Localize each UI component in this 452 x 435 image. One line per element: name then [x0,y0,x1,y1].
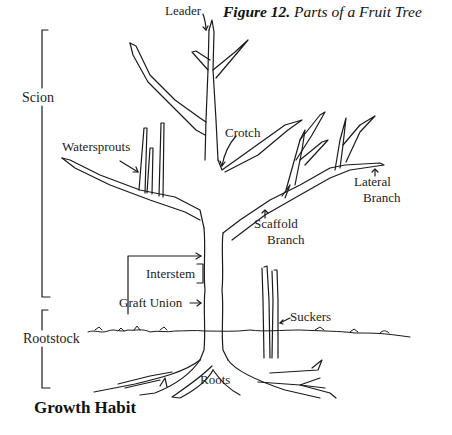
suckers [262,266,290,358]
scaffold-branch-label-line1: Scaffold [254,217,298,231]
fruit-tree-diagram: Figure 12. Parts of a Fruit Tree Scion R… [0,0,452,435]
graft-union-arrow [190,300,201,306]
upper-left-branch [130,43,206,135]
scaffold-branch-label-line2: Branch [267,233,305,247]
lateral-branch-label-line2: Branch [363,191,401,205]
watersprouts [139,123,164,197]
graft-union-label: Graft Union [119,296,182,310]
watersprouts-label: Watersprouts [62,140,130,154]
rootstock-label: Rootstock [23,332,80,346]
leader-arrow [203,14,208,30]
growth-habit-heading: Growth Habit [34,398,136,418]
lateral-branch-label-line1: Lateral [354,175,391,189]
figure-title: Parts of a Fruit Tree [290,3,422,20]
scion-bracket [42,30,50,297]
rootstock-bracket [42,310,50,388]
tree-illustration [0,0,452,435]
ground-line [88,326,410,337]
leader-label: Leader [165,4,201,18]
scion-label: Scion [22,91,54,105]
suckers-label: Suckers [290,310,331,324]
figure-number: Figure 12. [223,3,290,20]
watersprouts-arrow [120,161,138,172]
figure-caption: Figure 12. Parts of a Fruit Tree [223,3,422,21]
trunk [200,228,228,360]
crotch-label: Crotch [225,126,260,140]
roots-label: Roots [200,373,230,387]
interstem-label: Interstem [146,267,195,281]
